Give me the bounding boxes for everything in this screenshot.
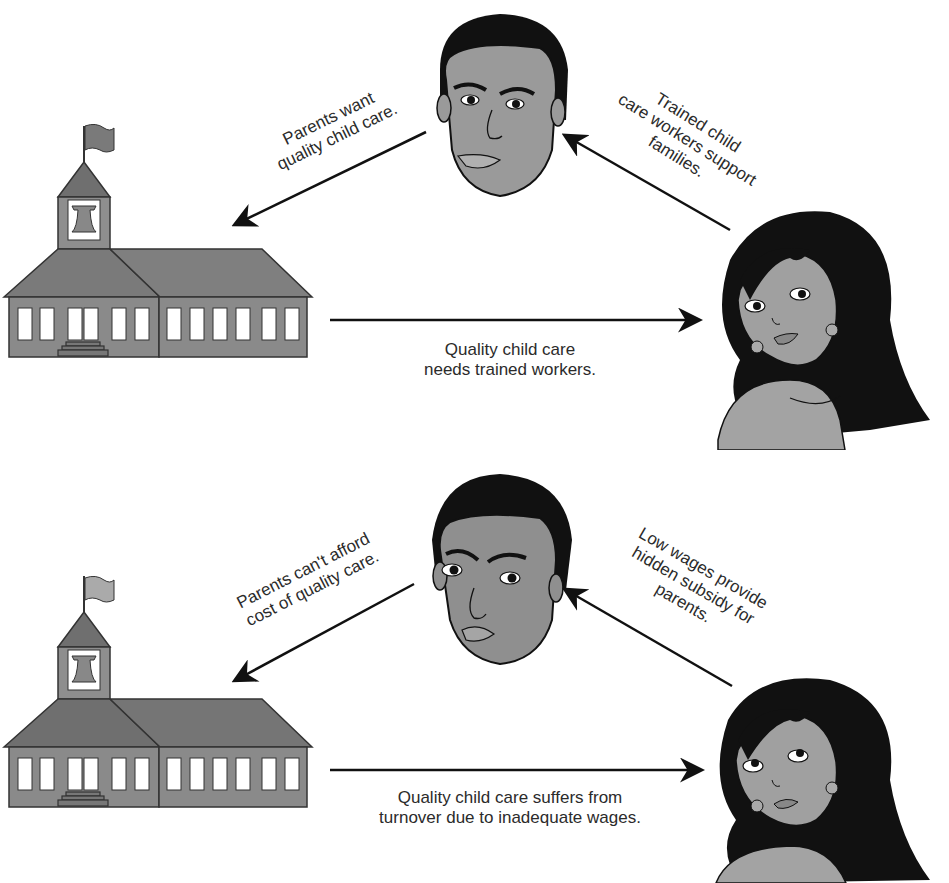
panel-bad-cycle: Parents can't afford cost of quality car… (0, 460, 949, 883)
label-line: turnover due to inadequate wages. (350, 808, 670, 828)
parent-face-frowning-icon (432, 474, 572, 664)
label-line: Quality child care (400, 340, 620, 360)
panel-good-cycle: Parents want quality child care. Trained… (0, 0, 949, 450)
diagram-graphics (0, 0, 949, 450)
label-line: needs trained workers. (400, 360, 620, 380)
label-quality-needs-trained: Quality child care needs trained workers… (400, 340, 620, 380)
label-quality-suffers-turnover: Quality child care suffers from turnover… (350, 788, 670, 828)
child-care-worker-smiling-icon (718, 211, 930, 450)
child-care-worker-frowning-icon (716, 678, 930, 883)
parent-face-smiling-icon (437, 14, 568, 196)
label-line: Quality child care suffers from (350, 788, 670, 808)
